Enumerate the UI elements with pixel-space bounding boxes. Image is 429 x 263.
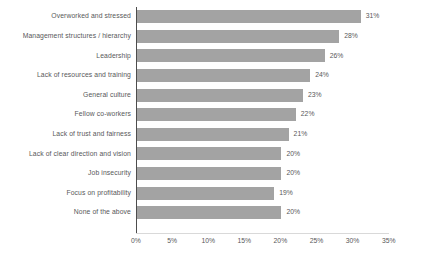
bar-track: 24% xyxy=(137,66,429,86)
bar-track: 19% xyxy=(137,183,429,203)
bar-value-label: 20% xyxy=(286,151,300,158)
bar xyxy=(137,10,361,23)
bar-track: 31% xyxy=(137,7,429,27)
x-axis-tick-label: 10% xyxy=(201,238,215,245)
bar xyxy=(137,206,281,219)
bar-track: 20% xyxy=(137,203,429,223)
x-axis-rule xyxy=(136,233,389,234)
bar xyxy=(137,30,339,43)
bar-row: Lack of trust and fairness21% xyxy=(0,125,429,145)
bar-row: Management structures / hierarchy28% xyxy=(0,27,429,47)
bar xyxy=(137,128,289,141)
bar-track: 22% xyxy=(137,105,429,125)
bar-row: Leadership26% xyxy=(0,46,429,66)
bar-rows: Overworked and stressed31%Management str… xyxy=(0,7,429,223)
bar xyxy=(137,69,310,82)
x-axis-tick-label: 5% xyxy=(167,238,177,245)
bar xyxy=(137,147,281,160)
bar-value-label: 24% xyxy=(315,72,329,79)
x-axis-tick-label: 30% xyxy=(346,238,360,245)
category-label: Job insecurity xyxy=(0,170,131,177)
category-label: Overworked and stressed xyxy=(0,13,131,20)
x-axis-tick-label: 0% xyxy=(131,238,141,245)
bar-row: Lack of clear direction and vision20% xyxy=(0,144,429,164)
bar-row: None of the above20% xyxy=(0,203,429,223)
bar-row: General culture23% xyxy=(0,85,429,105)
bar-row: Job insecurity20% xyxy=(0,164,429,184)
bar-value-label: 20% xyxy=(286,170,300,177)
category-label: Fellow co-workers xyxy=(0,111,131,118)
bar-row: Overworked and stressed31% xyxy=(0,7,429,27)
bar-value-label: 19% xyxy=(279,190,293,197)
bar-track: 20% xyxy=(137,144,429,164)
bar-row: Focus on profitability19% xyxy=(0,183,429,203)
bar-value-label: 23% xyxy=(308,92,322,99)
bar xyxy=(137,108,296,121)
bar-value-label: 26% xyxy=(330,53,344,60)
bar-value-label: 28% xyxy=(344,33,358,40)
bar xyxy=(137,167,281,180)
bar-value-label: 31% xyxy=(366,13,380,20)
x-axis-tick-label: 25% xyxy=(310,238,324,245)
bar-chart: Overworked and stressed31%Management str… xyxy=(0,0,429,263)
bar-track: 23% xyxy=(137,85,429,105)
bar-track: 20% xyxy=(137,164,429,184)
bar-value-label: 20% xyxy=(286,209,300,216)
category-label: Lack of trust and fairness xyxy=(0,131,131,138)
bar-value-label: 21% xyxy=(294,131,308,138)
category-label: Focus on profitability xyxy=(0,190,131,197)
x-axis-tick-label: 15% xyxy=(237,238,251,245)
x-axis-tick-label: 35% xyxy=(382,238,396,245)
x-axis-tick-label: 20% xyxy=(274,238,288,245)
bar-track: 26% xyxy=(137,46,429,66)
bar xyxy=(137,187,274,200)
bar xyxy=(137,49,325,62)
x-axis: 0%5%10%15%20%25%30%35% xyxy=(0,233,429,263)
category-label: Leadership xyxy=(0,53,131,60)
bar-row: Fellow co-workers22% xyxy=(0,105,429,125)
category-label: None of the above xyxy=(0,209,131,216)
category-label: Management structures / hierarchy xyxy=(0,33,131,40)
plot-area: Overworked and stressed31%Management str… xyxy=(0,0,429,234)
bar-track: 28% xyxy=(137,27,429,47)
bar xyxy=(137,89,303,102)
category-label: Lack of resources and training xyxy=(0,72,131,79)
bar-track: 21% xyxy=(137,125,429,145)
category-label: Lack of clear direction and vision xyxy=(0,151,131,158)
category-label: General culture xyxy=(0,92,131,99)
bar-value-label: 22% xyxy=(301,111,315,118)
bar-row: Lack of resources and training24% xyxy=(0,66,429,86)
